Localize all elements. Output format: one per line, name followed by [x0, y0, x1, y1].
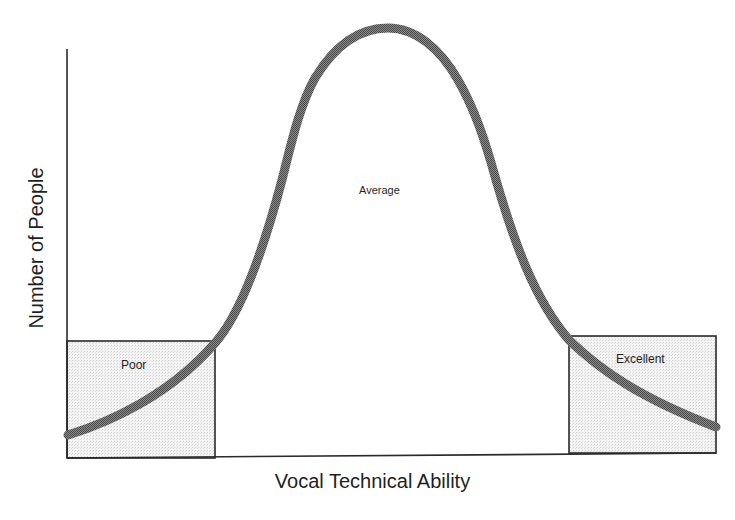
- y-axis-label: Number of People: [25, 167, 48, 328]
- bell-curve-figure: Poor Average Excellent Vocal Technical A…: [0, 0, 735, 520]
- poor-region-label: Poor: [121, 358, 146, 372]
- bell-curve-svg: [0, 0, 735, 520]
- excellent-region-label: Excellent: [616, 352, 665, 366]
- average-region-label: Average: [359, 184, 400, 196]
- x-axis-label: Vocal Technical Ability: [0, 470, 735, 493]
